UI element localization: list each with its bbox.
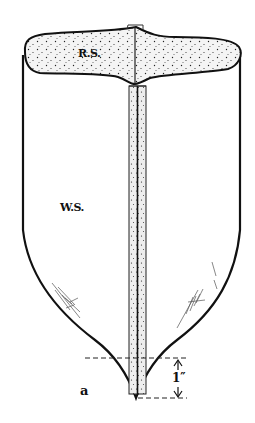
- wall-surface-label: W.S.: [60, 201, 84, 214]
- point-a-label: a: [80, 383, 88, 398]
- rim-surface-label: R.S.: [78, 47, 100, 60]
- hatch-marks-left: [52, 283, 80, 318]
- diagram-canvas: R.S. W.S. a 1″: [0, 0, 255, 423]
- dimension-label: 1″: [172, 371, 186, 385]
- rim-surface-cap: [25, 27, 241, 84]
- vessel-drawing: [0, 0, 255, 423]
- hatch-marks-right: [177, 262, 217, 328]
